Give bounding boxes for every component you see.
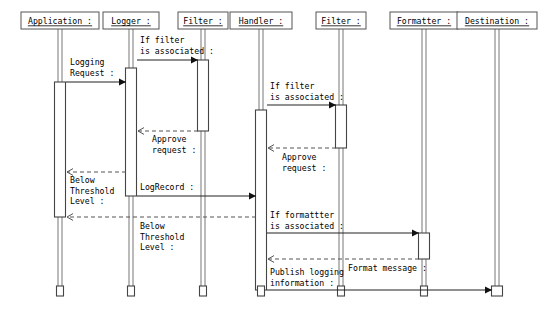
msg-below-threshold-1-label: BelowThresholdLevel : bbox=[70, 175, 114, 206]
participant-header-logger[interactable]: Logger : bbox=[103, 12, 159, 29]
msg-format-message-label: Format message : bbox=[348, 263, 427, 273]
msg-logrecord-arrowhead bbox=[249, 192, 256, 199]
lifeline-destination bbox=[495, 29, 499, 296]
lifeline-filter2 bbox=[339, 29, 343, 296]
participant-label-formatter: Formatter : bbox=[397, 16, 451, 26]
act-filter1 bbox=[198, 60, 209, 131]
participant-header-filter1[interactable]: Filter : bbox=[178, 12, 228, 29]
msg-below-threshold-2-label: BelowThresholdLevel : bbox=[140, 221, 184, 252]
msg-publish-logging-information-label: Publish logginginformation : bbox=[270, 267, 344, 288]
act-destination-end bbox=[492, 286, 503, 296]
lifelines-layer bbox=[58, 29, 499, 296]
msg-if-filter-associated-1: If filteris associated : bbox=[137, 35, 214, 64]
participant-header-handler[interactable]: Handler : bbox=[230, 12, 292, 29]
lifeline-end-stub-filter2 bbox=[338, 286, 345, 296]
lifeline-end-stub-handler bbox=[258, 286, 265, 296]
participant-header-formatter[interactable]: Formatter : bbox=[390, 12, 458, 29]
msg-approve-request-1-label: Approverequest : bbox=[152, 134, 196, 155]
participant-label-filter1: Filter : bbox=[183, 16, 222, 26]
participant-header-application[interactable]: Application : bbox=[21, 12, 99, 29]
lifeline-end-stub-formatter bbox=[421, 286, 428, 296]
lifeline-end-stub-logger bbox=[128, 286, 135, 296]
participant-header-filter2[interactable]: Filter : bbox=[316, 12, 366, 29]
msg-approve-request-2: Approverequest : bbox=[268, 145, 336, 172]
msg-if-filter-associated-1-label: If filteris associated : bbox=[140, 35, 214, 56]
sequence-diagram-canvas: LoggingRequest :If filteris associated :… bbox=[0, 0, 550, 320]
act-application-main bbox=[55, 82, 66, 217]
participant-label-logger: Logger : bbox=[111, 16, 150, 26]
msg-approve-request-2-label: Approverequest : bbox=[282, 152, 326, 173]
participant-headers-layer: Application :Logger :Filter :Handler :Fi… bbox=[21, 12, 537, 29]
msg-if-filter-associated-1-arrowhead bbox=[191, 56, 198, 63]
act-handler-main bbox=[256, 110, 267, 290]
lifeline-end-stub-filter1 bbox=[200, 286, 207, 296]
msg-if-filter-associated-2-label: If filteris associated : bbox=[270, 81, 344, 102]
lifeline-end-stub-application bbox=[57, 286, 64, 296]
participant-label-application: Application : bbox=[28, 16, 92, 26]
msg-if-formatter-associated-label: If formattteris associated : bbox=[270, 210, 344, 231]
msg-logrecord-label: LogRecord : bbox=[140, 182, 194, 192]
msg-below-threshold-1: BelowThresholdLevel : bbox=[67, 169, 126, 206]
act-filter2 bbox=[336, 105, 347, 148]
participant-label-filter2: Filter : bbox=[321, 16, 360, 26]
msg-logrecord: LogRecord : bbox=[137, 182, 256, 200]
msg-logging-request: LoggingRequest : bbox=[66, 57, 126, 86]
participant-label-handler: Handler : bbox=[239, 16, 283, 26]
msg-logging-request-arrowhead bbox=[119, 78, 126, 85]
sequence-diagram: LoggingRequest :If filteris associated :… bbox=[0, 0, 550, 320]
act-formatter bbox=[419, 233, 430, 259]
msg-approve-request-1: Approverequest : bbox=[138, 128, 198, 154]
participant-header-destination[interactable]: Destination : bbox=[457, 12, 537, 29]
msg-below-threshold-2: BelowThresholdLevel : bbox=[67, 214, 256, 252]
msg-logging-request-label: LoggingRequest : bbox=[70, 57, 114, 78]
act-logger-main bbox=[126, 68, 137, 196]
participant-label-destination: Destination : bbox=[465, 16, 529, 26]
msg-if-filter-associated-2: If filteris associated : bbox=[267, 81, 344, 109]
